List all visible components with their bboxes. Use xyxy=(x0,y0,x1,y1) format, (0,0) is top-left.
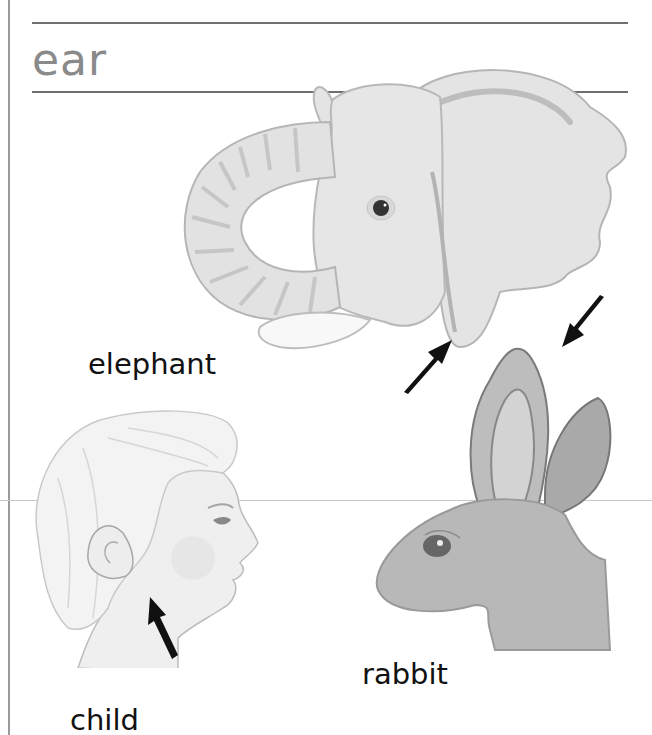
rabbit-illustration xyxy=(370,330,650,670)
page-left-border xyxy=(8,0,10,735)
heading-top-rule xyxy=(32,22,628,24)
elephant-label: elephant xyxy=(88,350,216,379)
page-title: ear xyxy=(32,38,107,82)
arrow-icon xyxy=(144,595,186,661)
arrow-icon xyxy=(558,293,608,351)
rabbit-label: rabbit xyxy=(362,660,448,689)
picture-dictionary-page: ear xyxy=(0,0,652,735)
child-label: child xyxy=(70,706,139,735)
